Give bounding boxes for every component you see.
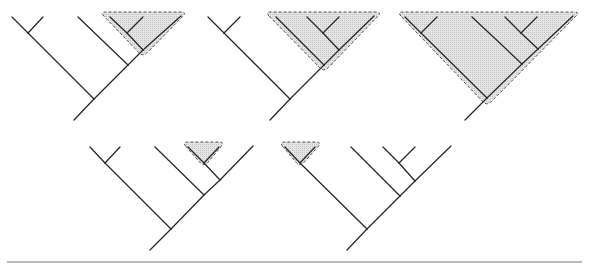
branch-AB	[105, 163, 171, 229]
branch-internal-2	[204, 180, 220, 195]
root-branch	[347, 229, 367, 250]
branch-internal-2	[400, 181, 415, 196]
highlighted-clades	[102, 12, 577, 165]
root-branch	[150, 229, 171, 250]
leaf-A	[12, 17, 28, 33]
root-branch	[270, 99, 290, 120]
root-branch	[465, 98, 487, 120]
cladogram-figure	[0, 0, 592, 270]
tree-2-highlighted-clade	[267, 12, 379, 70]
leaf-B	[105, 147, 120, 163]
leaf-E	[399, 147, 415, 163]
leaf-F	[415, 146, 451, 181]
branch-internal	[367, 196, 400, 229]
branch-internal-2	[128, 50, 143, 65]
leaf-B	[28, 17, 43, 33]
leaf-F	[220, 146, 253, 180]
branch-DE	[204, 163, 220, 180]
tree-4-highlighted-clade	[184, 142, 222, 165]
tree-4	[90, 146, 253, 250]
branch-DE	[399, 163, 415, 181]
tree-3-highlighted-clade	[399, 12, 577, 104]
tree-5-highlighted-clade	[281, 142, 319, 165]
leaf-D	[383, 147, 399, 163]
branch-internal	[290, 65, 324, 99]
branch-internal	[94, 65, 128, 99]
branch-AB	[300, 163, 367, 229]
root-branch	[74, 99, 94, 120]
leaf-A	[90, 147, 105, 163]
branch-internal	[171, 195, 204, 229]
leaf-A	[208, 17, 224, 33]
branch-AB	[224, 33, 290, 99]
tree-5	[285, 146, 451, 250]
leaf-B	[224, 17, 240, 33]
tree-1-highlighted-clade	[102, 12, 184, 55]
branch-AB	[28, 33, 94, 99]
leaf-C	[351, 147, 400, 196]
